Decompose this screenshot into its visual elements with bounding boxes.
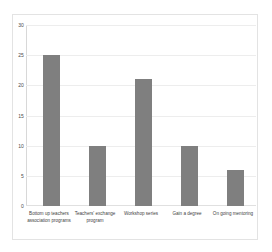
y-tick-slot: 0 bbox=[0, 203, 24, 209]
y-tick-slot: 15 bbox=[0, 113, 24, 119]
x-label-teachers-exchange-program: Teachers' exchange program bbox=[72, 210, 118, 238]
x-label-bottom-up-teachers-association-programs: Bottom up teachers association programs bbox=[26, 210, 72, 238]
y-tick-slot: 5 bbox=[0, 173, 24, 179]
y-tick-label: 0 bbox=[0, 203, 24, 209]
bar-on-going-mentoring[interactable] bbox=[227, 170, 244, 206]
bar-workshop-series[interactable] bbox=[135, 79, 152, 206]
y-tick-slot: 25 bbox=[0, 52, 24, 58]
plot-area bbox=[26, 25, 256, 206]
y-tick-slot: 30 bbox=[0, 22, 24, 28]
gridline-25 bbox=[26, 55, 256, 56]
y-tick-label: 10 bbox=[0, 143, 24, 149]
y-tick-label: 15 bbox=[0, 113, 24, 119]
y-axis-tick-labels: 0 5 10 15 20 25 30 bbox=[0, 25, 24, 206]
y-tick-label: 25 bbox=[0, 52, 24, 58]
bar-bottom-up-teachers-association-programs[interactable] bbox=[43, 55, 60, 206]
x-axis-labels: Bottom up teachers association programs … bbox=[26, 210, 256, 238]
y-tick-slot: 10 bbox=[0, 143, 24, 149]
y-tick-label: 20 bbox=[0, 82, 24, 88]
gridline-30 bbox=[26, 25, 256, 26]
y-tick-label: 5 bbox=[0, 173, 24, 179]
x-label-workshop-series: Workshop series bbox=[118, 210, 164, 238]
y-tick-slot: 20 bbox=[0, 82, 24, 88]
x-label-gain-a-degree: Gain a degree bbox=[164, 210, 210, 238]
x-label-on-going-mentoring: On going mentoring bbox=[210, 210, 256, 238]
y-tick-label: 30 bbox=[0, 22, 24, 28]
bar-gain-a-degree[interactable] bbox=[181, 146, 198, 206]
bar-chart: 0 5 10 15 20 25 30 bbox=[0, 0, 272, 252]
bar-teachers-exchange-program[interactable] bbox=[89, 146, 106, 206]
